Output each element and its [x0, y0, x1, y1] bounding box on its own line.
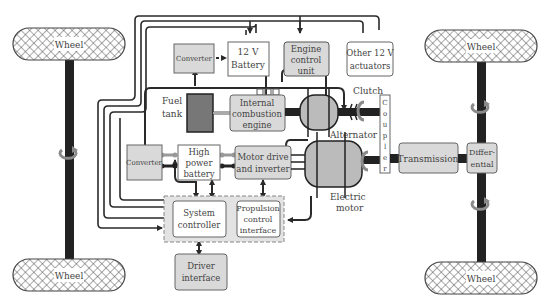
svg-text:engine: engine — [242, 120, 271, 130]
fuel-tank-block: Fuel tank — [162, 94, 213, 132]
other-actuators-block: Other 12 V actuators — [346, 42, 394, 76]
svg-text:Converter: Converter — [176, 55, 212, 63]
ice-block: Internal combustion engine — [230, 89, 285, 131]
svg-text:Battery: Battery — [231, 60, 266, 70]
svg-text:Differ-: Differ- — [469, 148, 495, 157]
svg-text:control: control — [291, 55, 322, 65]
engine-control-unit-block: Engine control unit — [284, 42, 329, 76]
electric-motor-label: motor — [336, 203, 364, 213]
svg-text:High: High — [188, 147, 210, 157]
svg-text:e: e — [383, 154, 387, 162]
svg-text:Converter: Converter — [126, 159, 162, 167]
high-power-battery-block: High power battery — [178, 145, 220, 180]
svg-text:and inverter: and inverter — [236, 164, 290, 174]
svg-text:Motor drive: Motor drive — [237, 152, 288, 162]
wheel-label: Wheel — [467, 274, 496, 284]
driver-interface-block: Driver interface — [175, 254, 227, 290]
wheel-rear-right: Wheel — [425, 262, 537, 294]
svg-text:combustion: combustion — [232, 109, 282, 119]
svg-text:tank: tank — [162, 109, 183, 119]
electric-motor: Electric motor — [305, 132, 380, 213]
svg-text:12 V: 12 V — [238, 47, 259, 57]
wheel-label: Wheel — [55, 40, 84, 50]
svg-text:Fuel: Fuel — [162, 96, 182, 106]
three-phase-lines — [291, 155, 306, 169]
alternator: Clutch Alternator — [300, 86, 383, 140]
svg-text:C: C — [382, 99, 387, 107]
svg-text:Engine: Engine — [291, 44, 321, 54]
wheel-label: Wheel — [55, 271, 84, 281]
svg-text:control: control — [244, 215, 273, 224]
wheel-label: Wheel — [467, 42, 496, 52]
svg-text:Other 12 V: Other 12 V — [346, 48, 394, 58]
svg-text:interface: interface — [182, 273, 221, 283]
clutch-label: Clutch — [353, 86, 383, 96]
electric-motor-label: Electric — [330, 192, 366, 202]
system-controller-block: System controller — [173, 201, 226, 237]
wheel-front-left: Wheel — [13, 28, 125, 60]
wheel-rear-left: Wheel — [13, 259, 125, 291]
svg-text:power: power — [186, 158, 214, 168]
transmission-block: Transmission — [398, 143, 459, 173]
svg-text:battery: battery — [183, 169, 214, 179]
coupler-block: C o u p l e r — [380, 95, 390, 173]
svg-text:actuators: actuators — [350, 61, 391, 71]
battery-12v-block: 12 V Battery — [228, 42, 269, 76]
svg-text:ential: ential — [471, 160, 494, 169]
svg-text:Propulsion: Propulsion — [236, 204, 280, 213]
hev-powertrain-diagram: Wheel Wheel Wheel Wheel — [0, 0, 553, 307]
svg-text:interface: interface — [240, 226, 277, 235]
svg-text:controller: controller — [178, 220, 221, 230]
motor-drive-inverter-block: Motor drive and inverter — [235, 146, 291, 179]
svg-text:p: p — [383, 132, 388, 140]
converter-top-block: Converter — [174, 44, 214, 73]
svg-text:Internal: Internal — [240, 98, 275, 108]
svg-text:Transmission: Transmission — [398, 154, 459, 164]
svg-text:unit: unit — [297, 66, 315, 76]
left-axle — [60, 58, 78, 263]
alternator-label: Alternator — [329, 130, 378, 140]
wheel-front-right: Wheel — [425, 30, 537, 62]
svg-text:System: System — [183, 208, 215, 218]
svg-text:Driver: Driver — [187, 261, 215, 271]
propulsion-control-interface-block: Propulsion control interface — [236, 201, 280, 237]
differential-block: Differ- ential — [467, 143, 497, 173]
svg-text:o: o — [383, 110, 387, 118]
converter-mid-block: Converter — [126, 145, 162, 180]
svg-text:u: u — [383, 121, 388, 129]
